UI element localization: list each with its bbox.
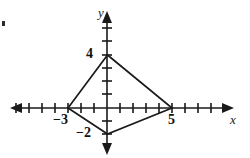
coordinate-plane-figure: y x 4 −2 −3 5 (0, 0, 250, 158)
tick-label-x-5: 5 (168, 113, 175, 127)
tick-label-x-negative-3: −3 (53, 113, 68, 127)
x-axis-group (16, 103, 228, 113)
tick-label-y-negative-2: −2 (76, 126, 91, 140)
y-axis-label: y (98, 6, 104, 19)
y-axis-down-arrow (102, 143, 112, 155)
x-axis-label: x (230, 113, 236, 126)
tick-label-y-4: 4 (86, 47, 93, 61)
y-axis-group (102, 18, 112, 148)
quadrilateral-shape (68, 55, 172, 134)
axis-arrowheads (10, 11, 234, 155)
plot-canvas (0, 0, 250, 158)
